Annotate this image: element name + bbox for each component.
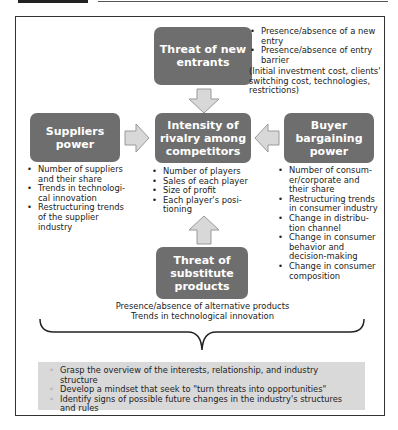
- arrow-down-icon: [187, 88, 221, 114]
- buyer-power-label: Buyer bargaining power: [288, 119, 370, 158]
- list-item: Restructuring trends of the supplier ind…: [25, 203, 133, 232]
- list-item: Number of consum-er/corporate and their …: [276, 166, 381, 195]
- suppliers-power-box: Suppliers power: [30, 113, 120, 162]
- header-rule: [98, 1, 388, 2]
- threat-new-entrants-label: Threat of new entrants: [158, 43, 248, 69]
- list-item: Number of suppliers and their share: [25, 165, 133, 184]
- summary-item: Identify signs of possible future change…: [46, 395, 357, 414]
- arrow-up-icon: [187, 215, 221, 245]
- list-item: Presence/absence of entry barrier: [248, 46, 378, 65]
- summary-box: Grasp the overview of the interests, rel…: [38, 362, 365, 410]
- arrow-left-icon: [254, 123, 280, 153]
- list-item: Change in consumer behavior and decision…: [276, 233, 381, 262]
- list-item: Change in distribu-tion channel: [276, 214, 381, 233]
- buyer-power-box: Buyer bargaining power: [284, 113, 374, 163]
- curly-brace-icon: [38, 317, 368, 353]
- summary-item: Grasp the overview of the interests, rel…: [46, 366, 357, 385]
- substitute-note: Presence/absence of alternative products: [60, 301, 345, 311]
- header-tab: [18, 0, 88, 3]
- arrow-right-icon: [124, 123, 150, 153]
- rivalry-label: Intensity of rivalry among competitors: [159, 119, 247, 158]
- list-item: Presence/absence of a new entry: [248, 27, 378, 46]
- rivalry-box: Intensity of rivalry among competitors: [155, 113, 251, 163]
- list-item: Change in consumer composition: [276, 262, 381, 281]
- substitute-products-label: Threat of substitute products: [160, 254, 244, 293]
- list-item: Each player's posi-tioning: [150, 196, 262, 215]
- substitute-products-box: Threat of substitute products: [156, 247, 248, 299]
- list-item: Restructuring trends in consumer industr…: [276, 195, 381, 214]
- entry-barrier-note: (Initial investment cost, clients' switc…: [249, 67, 384, 96]
- suppliers-list: Number of suppliers and their share Tren…: [25, 165, 133, 232]
- new-entrants-list: Presence/absence of a new entry Presence…: [248, 27, 378, 65]
- suppliers-power-label: Suppliers power: [34, 125, 116, 151]
- list-item: Trends in technologi-cal innovation: [25, 184, 133, 203]
- threat-new-entrants-box: Threat of new entrants: [154, 27, 252, 85]
- buyer-list: Number of consum-er/corporate and their …: [276, 166, 381, 281]
- rivalry-list: Number of players Sales of each player S…: [150, 167, 262, 215]
